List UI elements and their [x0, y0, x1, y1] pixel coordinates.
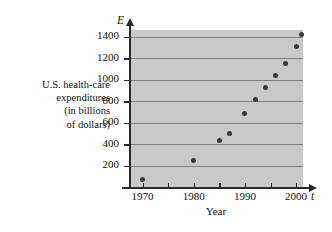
- y-axis-arrow-icon: [126, 18, 134, 26]
- y-axis-tick-label: 1400: [77, 29, 119, 41]
- data-point: [299, 32, 304, 37]
- y-axis-tick-label: 1200: [77, 51, 119, 63]
- y-axis-line: [129, 24, 131, 188]
- data-point: [294, 44, 299, 49]
- x-axis-tick: [168, 183, 169, 189]
- gridline: [130, 166, 303, 167]
- x-axis-tick-label: 1990: [225, 190, 265, 202]
- data-point: [140, 177, 145, 182]
- x-axis-tick: [245, 183, 246, 189]
- gridline: [130, 58, 303, 59]
- scatter-chart-figure: U.S. health-care expenditures (in billio…: [0, 0, 332, 232]
- y-axis-tick: [124, 166, 131, 167]
- plot-area: [130, 30, 303, 188]
- y-axis-tick: [124, 80, 131, 81]
- x-axis-tick: [143, 183, 144, 189]
- y-axis-tick: [124, 144, 131, 145]
- y-axis-tick: [124, 123, 131, 124]
- y-axis-tick-label: 600: [77, 115, 119, 127]
- x-axis-tick: [296, 183, 297, 189]
- y-axis-symbol: E: [117, 14, 124, 26]
- y-axis-tick-label: 200: [77, 158, 119, 170]
- x-axis-tick: [219, 183, 220, 189]
- gridline: [130, 123, 303, 124]
- data-point: [263, 85, 268, 90]
- gridline: [130, 101, 303, 102]
- gridline: [130, 37, 303, 38]
- x-axis-line: [122, 187, 311, 189]
- y-axis-tick-label: 800: [77, 94, 119, 106]
- y-axis-tick-label: 1000: [77, 72, 119, 84]
- x-axis-tick: [194, 183, 195, 189]
- x-axis-tick-label: 1970: [123, 190, 163, 202]
- data-point: [253, 97, 258, 102]
- y-axis-tick: [124, 58, 131, 59]
- x-axis-tick: [271, 183, 272, 189]
- x-axis-caption: Year: [186, 205, 246, 217]
- y-axis-tick: [124, 37, 131, 38]
- gridline: [130, 144, 303, 145]
- y-axis-tick-label: 400: [77, 137, 119, 149]
- y-axis-tick: [124, 101, 131, 102]
- gridline: [130, 80, 303, 81]
- x-axis-tick-label: 1980: [174, 190, 214, 202]
- x-axis-tick-label: 2000: [276, 190, 316, 202]
